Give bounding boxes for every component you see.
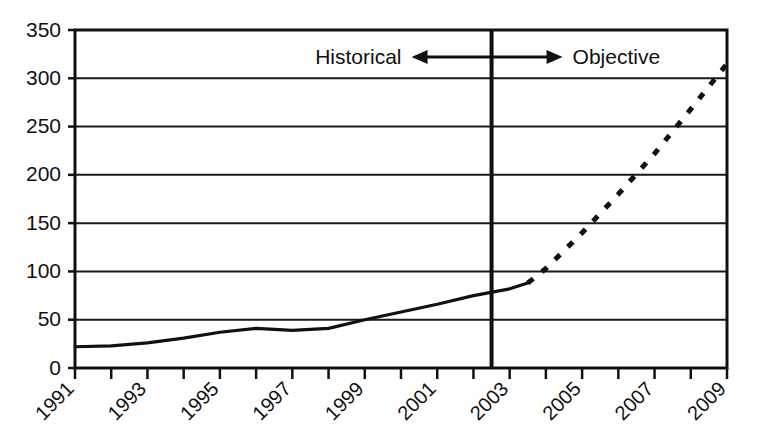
plot-frame [75,30,727,368]
x-axis-tick-label: 1991 [31,377,78,424]
x-axis-tick-label: 2007 [610,377,657,424]
x-axis-tick-label: 1995 [176,377,223,424]
x-axis-tick-label: 1999 [321,377,368,424]
x-axis-tick-label: 2005 [538,377,585,424]
y-axis-tick-label: 150 [26,211,61,234]
data-series-historical [75,283,528,347]
line-chart: 0501001502002503003501991199319951997199… [0,0,759,446]
x-axis-tick-label: 2001 [393,377,440,424]
chart-container: 0501001502002503003501991199319951997199… [0,0,759,446]
historical-annotation-label: Historical [315,45,401,68]
y-axis-tick-label: 100 [26,259,61,282]
y-axis-tick-label: 250 [26,114,61,137]
x-axis-tick-label: 1993 [103,377,150,424]
y-axis-tick-label: 0 [49,356,61,379]
y-axis-tick-label: 350 [26,18,61,41]
y-axis-tick-label: 50 [38,307,61,330]
x-axis-tick-label: 2003 [465,377,512,424]
objective-arrow-head-icon [547,50,563,64]
historical-arrow-head-icon [412,50,428,64]
x-axis-tick-label: 2009 [683,377,730,424]
objective-annotation-label: Objective [573,45,661,68]
y-axis-tick-label: 300 [26,66,61,89]
data-series-objective [528,64,727,283]
x-axis-tick-label: 1997 [248,377,295,424]
y-axis-tick-label: 200 [26,162,61,185]
